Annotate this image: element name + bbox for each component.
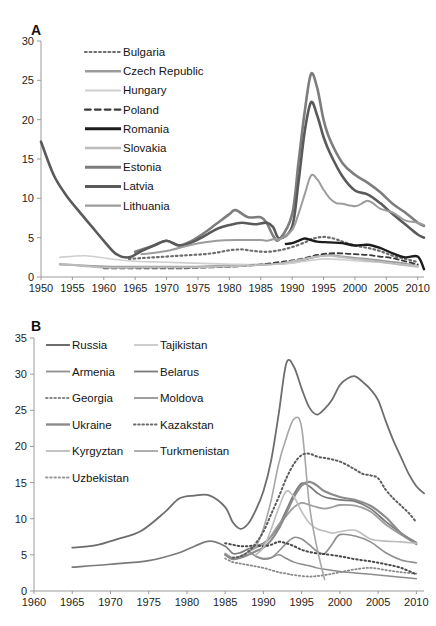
x-tick-label: 1960	[22, 596, 46, 608]
x-tick-label: 1980	[175, 596, 199, 608]
x-tick-label: 1995	[289, 596, 313, 608]
y-tick-label: 25	[22, 74, 34, 86]
x-tick-label: 1950	[29, 282, 53, 294]
x-tick-label: 1965	[123, 282, 147, 294]
legend-label: Moldova	[160, 392, 204, 404]
y-tick-label: 15	[22, 153, 34, 165]
y-tick-label: 5	[28, 232, 34, 244]
series-line	[72, 360, 424, 548]
x-tick-label: 1990	[280, 282, 304, 294]
series-group	[72, 360, 424, 580]
legend-label: Ukraine	[72, 419, 112, 431]
x-tick-label: 1985	[249, 282, 273, 294]
x-tick-label: 1985	[213, 596, 237, 608]
y-tick-label: 5	[21, 549, 27, 561]
y-tick-label: 15	[15, 477, 27, 489]
panel-a: A 05101520253019501955196019651970197519…	[0, 0, 436, 318]
x-tick-label: 2010	[405, 282, 429, 294]
y-tick-label: 20	[22, 114, 34, 126]
legend-label: Turkmenistan	[160, 445, 229, 457]
legend-label: Tajikistan	[160, 339, 207, 351]
series-line	[41, 102, 424, 258]
x-tick-label: 1970	[98, 596, 122, 608]
x-tick-label: 1960	[92, 282, 116, 294]
legend-label: Bulgaria	[123, 46, 166, 58]
legend: BulgariaCzech RepublicHungaryPolandRoman…	[85, 46, 204, 212]
panel-a-chart: 0510152025301950195519601965197019751980…	[0, 0, 436, 318]
legend-label: Estonia	[123, 161, 162, 173]
panel-b-chart: 0510152025303519601965197019751980198519…	[0, 310, 436, 626]
y-tick-label: 10	[15, 513, 27, 525]
y-tick-label: 10	[22, 192, 34, 204]
legend-label: Armenia	[72, 366, 115, 378]
x-tick-label: 1965	[60, 596, 84, 608]
legend-label: Hungary	[123, 84, 167, 96]
panel-b-letter: B	[31, 318, 41, 334]
y-tick-label: 35	[15, 332, 27, 344]
x-tick-label: 1970	[154, 282, 178, 294]
series-line	[256, 417, 325, 579]
legend-label: Romania	[123, 123, 170, 135]
series-line	[135, 73, 424, 252]
y-tick-label: 20	[15, 440, 27, 452]
x-tick-label: 1975	[186, 282, 210, 294]
panel-a-letter: A	[31, 22, 41, 38]
legend-label: Uzbekistan	[72, 472, 129, 484]
x-tick-label: 1980	[217, 282, 241, 294]
legend-label: Slovakia	[123, 142, 167, 154]
x-tick-label: 1995	[311, 282, 335, 294]
legend-label: Georgia	[72, 392, 114, 404]
legend-label: Kazakstan	[160, 419, 214, 431]
legend-label: Russia	[72, 339, 108, 351]
series-group	[41, 73, 424, 269]
legend-label: Latvia	[123, 180, 154, 192]
x-tick-label: 2005	[374, 282, 398, 294]
x-tick-label: 1975	[136, 596, 160, 608]
panel-b: B 05101520253035196019651970197519801985…	[0, 310, 436, 626]
series-line	[256, 555, 417, 579]
y-tick-label: 30	[15, 368, 27, 380]
legend-label: Kyrgyztan	[72, 445, 123, 457]
y-tick-label: 25	[15, 404, 27, 416]
legend-label: Poland	[123, 104, 159, 116]
legend-label: Czech Republic	[123, 65, 204, 77]
x-tick-label: 1955	[60, 282, 84, 294]
legend: RussiaArmeniaGeorgiaUkraineKyrgyztanUzbe…	[46, 339, 229, 484]
x-tick-label: 2010	[404, 596, 428, 608]
figure-container: A 05101520253019501955196019651970197519…	[0, 0, 436, 626]
x-tick-label: 1990	[251, 596, 275, 608]
x-tick-label: 2000	[328, 596, 352, 608]
legend-label: Belarus	[160, 366, 199, 378]
x-tick-label: 2000	[343, 282, 367, 294]
x-tick-label: 2005	[366, 596, 390, 608]
legend-label: Lithuania	[123, 200, 170, 212]
series-line	[141, 175, 424, 254]
